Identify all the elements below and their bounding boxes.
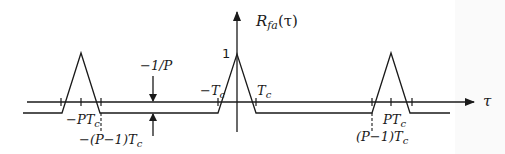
pos-p1tc-label: (P−1)Tc <box>356 129 409 146</box>
offset-label: −1/P <box>140 58 173 73</box>
y-axis-label: Rfa(τ) <box>255 12 298 32</box>
peak-value-label: 1 <box>222 46 230 61</box>
neg-tc-label: −Tc <box>200 83 226 100</box>
pos-tc-label: Tc <box>257 83 272 100</box>
autocorrelation-diagram: Rfa(τ) τ 1 −1/P −Tc Tc −PTc PTc −(P−1)Tc… <box>0 0 505 154</box>
pos-ptc-label: PTc <box>382 112 406 129</box>
diagram-svg: Rfa(τ) τ 1 −1/P −Tc Tc −PTc PTc −(P−1)Tc… <box>0 0 505 154</box>
x-axis-label: τ <box>483 92 492 110</box>
neg-ptc-label: −PTc <box>66 112 100 129</box>
neg-p1tc-label: −(P−1)Tc <box>79 132 143 149</box>
